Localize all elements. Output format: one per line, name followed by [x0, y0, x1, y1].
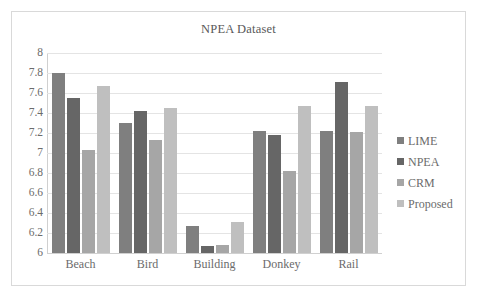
legend-swatch-icon	[397, 137, 404, 144]
bar[interactable]	[149, 140, 162, 253]
x-axis-label-bird: Bird	[114, 258, 181, 270]
bar[interactable]	[201, 246, 214, 253]
y-axis-tick-labels: 87.87.67.47.276.86.66.46.26	[12, 53, 43, 254]
y-axis-tick-label: 6.6	[13, 187, 43, 199]
y-axis-tick-label: 8	[13, 47, 43, 59]
legend-swatch-icon	[397, 158, 404, 165]
bar-group	[315, 53, 382, 253]
legend-label: NPEA	[408, 156, 439, 168]
bar[interactable]	[335, 82, 348, 253]
bar[interactable]	[82, 150, 95, 253]
y-axis-tick-label: 6.4	[13, 207, 43, 219]
bar[interactable]	[119, 123, 132, 253]
bar[interactable]	[231, 222, 244, 253]
y-axis-tick-label: 7.6	[13, 87, 43, 99]
legend-item-npea[interactable]: NPEA	[397, 151, 477, 172]
legend-item-lime[interactable]: LIME	[397, 130, 477, 151]
legend-label: Proposed	[408, 198, 453, 210]
bar-group	[181, 53, 248, 253]
bar[interactable]	[134, 111, 147, 253]
bar[interactable]	[186, 226, 199, 253]
y-axis-tick-label: 7.2	[13, 127, 43, 139]
plot-area	[47, 53, 382, 253]
y-axis-tick-label: 7.4	[13, 107, 43, 119]
bar[interactable]	[164, 108, 177, 253]
y-axis-tick-label: 6.2	[13, 227, 43, 239]
legend-item-proposed[interactable]: Proposed	[397, 193, 477, 214]
bar[interactable]	[320, 131, 333, 253]
legend-item-crm[interactable]: CRM	[397, 172, 477, 193]
bar[interactable]	[253, 131, 266, 253]
bar[interactable]	[52, 73, 65, 253]
chart-frame: NPEA Dataset 87.87.67.47.276.86.66.46.26…	[11, 11, 466, 286]
bar[interactable]	[350, 132, 363, 253]
legend-label: CRM	[408, 177, 435, 189]
x-axis-label-beach: Beach	[47, 258, 114, 270]
chart-title: NPEA Dataset	[12, 22, 465, 37]
y-axis-tick-label: 7	[13, 147, 43, 159]
bar[interactable]	[67, 98, 80, 253]
y-axis-tick-label: 6.8	[13, 167, 43, 179]
bar[interactable]	[268, 135, 281, 253]
bar[interactable]	[97, 86, 110, 253]
gridline	[47, 253, 382, 254]
bar[interactable]	[298, 106, 311, 253]
x-axis-label-donkey: Donkey	[248, 258, 315, 270]
bar[interactable]	[283, 171, 296, 253]
legend-swatch-icon	[397, 179, 404, 186]
chart-legend: LIMENPEACRMProposed	[397, 130, 477, 214]
bar[interactable]	[216, 245, 229, 253]
bar-group	[248, 53, 315, 253]
legend-label: LIME	[408, 135, 437, 147]
x-axis-label-building: Building	[181, 258, 248, 270]
y-axis-tick-label: 6	[13, 247, 43, 259]
x-axis-label-rail: Rail	[315, 258, 382, 270]
bar[interactable]	[365, 106, 378, 253]
legend-swatch-icon	[397, 200, 404, 207]
bar-group	[114, 53, 181, 253]
bar-group	[47, 53, 114, 253]
y-axis-tick-label: 7.8	[13, 67, 43, 79]
